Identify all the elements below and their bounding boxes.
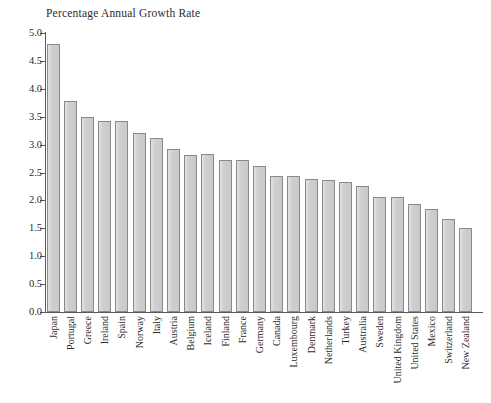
bar-rect[interactable] bbox=[133, 133, 146, 312]
x-tick: Germany bbox=[251, 313, 268, 403]
x-tick: Netherlands bbox=[320, 313, 337, 403]
x-tick: Greece bbox=[79, 313, 96, 403]
x-tick-label: Finland bbox=[221, 316, 231, 347]
x-tick-label: Belgium bbox=[186, 316, 196, 350]
bar-rect[interactable] bbox=[167, 149, 180, 312]
x-tick-label: Mexico bbox=[427, 316, 437, 347]
y-tick-label: 3.5 bbox=[29, 111, 42, 122]
bar-rect[interactable] bbox=[253, 166, 266, 312]
bar-rect[interactable] bbox=[373, 197, 386, 313]
x-tick: Portugal bbox=[62, 313, 79, 403]
bar-rect[interactable] bbox=[98, 121, 111, 312]
x-tick-label: Spain bbox=[117, 316, 127, 339]
bar[interactable] bbox=[200, 33, 217, 312]
x-tick-label: Canada bbox=[272, 316, 282, 346]
bar[interactable] bbox=[269, 33, 286, 312]
x-tick-label: Iceland bbox=[203, 316, 213, 345]
bar[interactable] bbox=[406, 33, 423, 312]
bar[interactable] bbox=[441, 33, 458, 312]
x-tick-label: Sweden bbox=[375, 316, 385, 348]
x-tick-label: Germany bbox=[255, 316, 265, 353]
bar[interactable] bbox=[217, 33, 234, 312]
x-tick-label: Netherlands bbox=[324, 316, 334, 364]
x-tick: Canada bbox=[269, 313, 286, 403]
bar-rect[interactable] bbox=[305, 179, 318, 312]
bar-chart: Percentage Annual Growth Rate 0.00.51.01… bbox=[0, 0, 491, 403]
x-tick: Luxembourg bbox=[286, 313, 303, 403]
bar-rect[interactable] bbox=[322, 180, 335, 312]
x-tick-label: Greece bbox=[83, 316, 93, 344]
x-tick-label: Turkey bbox=[341, 316, 351, 345]
x-tick-label: Norway bbox=[135, 316, 145, 348]
x-tick: Austria bbox=[165, 313, 182, 403]
page-title: Percentage Annual Growth Rate bbox=[46, 7, 200, 19]
bar-rect[interactable] bbox=[442, 219, 455, 312]
bar-rect[interactable] bbox=[236, 160, 249, 312]
x-tick-label: Denmark bbox=[307, 316, 317, 353]
y-tick-label: 0.0 bbox=[29, 307, 42, 318]
bar-rect[interactable] bbox=[47, 44, 60, 312]
x-tick: Ireland bbox=[97, 313, 114, 403]
x-tick: Switzerland bbox=[441, 313, 458, 403]
bar-rect[interactable] bbox=[150, 138, 163, 312]
bar-rect[interactable] bbox=[425, 209, 438, 312]
bar[interactable] bbox=[337, 33, 354, 312]
bar[interactable] bbox=[286, 33, 303, 312]
bar[interactable] bbox=[320, 33, 337, 312]
x-tick-label: Australia bbox=[358, 316, 368, 353]
bar[interactable] bbox=[355, 33, 372, 312]
x-axis-labels: JapanPortugalGreeceIrelandSpainNorwayIta… bbox=[45, 313, 482, 403]
y-tick-label: 2.0 bbox=[29, 195, 42, 206]
bar[interactable] bbox=[114, 33, 131, 312]
x-tick: Iceland bbox=[200, 313, 217, 403]
bar-rect[interactable] bbox=[459, 228, 472, 312]
x-tick: United Kingdom bbox=[389, 313, 406, 403]
bar[interactable] bbox=[79, 33, 96, 312]
bar-rect[interactable] bbox=[115, 121, 128, 312]
bar[interactable] bbox=[148, 33, 165, 312]
y-tick-label: 4.5 bbox=[29, 56, 42, 67]
x-tick-label: Luxembourg bbox=[289, 316, 299, 367]
x-tick: Sweden bbox=[372, 313, 389, 403]
bar-rect[interactable] bbox=[81, 117, 94, 312]
x-tick: Mexico bbox=[423, 313, 440, 403]
x-tick: Italy bbox=[148, 313, 165, 403]
bar[interactable] bbox=[165, 33, 182, 312]
y-tick-label: 1.5 bbox=[29, 223, 42, 234]
bar[interactable] bbox=[183, 33, 200, 312]
bar[interactable] bbox=[372, 33, 389, 312]
bar-rect[interactable] bbox=[356, 186, 369, 312]
x-tick-label: Portugal bbox=[66, 316, 76, 350]
bar[interactable] bbox=[131, 33, 148, 312]
x-tick: Norway bbox=[131, 313, 148, 403]
bar[interactable] bbox=[458, 33, 475, 312]
bar-rect[interactable] bbox=[408, 204, 421, 312]
y-tick-label: 5.0 bbox=[29, 28, 42, 39]
x-tick-label: United Kingdom bbox=[393, 316, 403, 384]
bar[interactable] bbox=[423, 33, 440, 312]
y-tick-label: 2.5 bbox=[29, 167, 42, 178]
x-tick: Finland bbox=[217, 313, 234, 403]
x-tick: Denmark bbox=[303, 313, 320, 403]
bar[interactable] bbox=[97, 33, 114, 312]
bar-rect[interactable] bbox=[270, 176, 283, 312]
bar-rect[interactable] bbox=[391, 197, 404, 313]
x-tick: New Zealand bbox=[458, 313, 475, 403]
bar[interactable] bbox=[234, 33, 251, 312]
bar[interactable] bbox=[45, 33, 62, 312]
bar-rect[interactable] bbox=[287, 176, 300, 312]
x-tick-label: Switzerland bbox=[444, 316, 454, 364]
bar-rect[interactable] bbox=[64, 101, 77, 312]
bar-rect[interactable] bbox=[201, 154, 214, 312]
bar[interactable] bbox=[62, 33, 79, 312]
bar-rect[interactable] bbox=[184, 155, 197, 312]
bar[interactable] bbox=[389, 33, 406, 312]
x-tick-label: Ireland bbox=[100, 316, 110, 344]
bar[interactable] bbox=[303, 33, 320, 312]
x-tick-label: Italy bbox=[152, 316, 162, 334]
bar-rect[interactable] bbox=[219, 160, 232, 312]
y-tick-label: 0.5 bbox=[29, 279, 42, 290]
bar-rect[interactable] bbox=[339, 182, 352, 312]
bar[interactable] bbox=[251, 33, 268, 312]
x-tick-label: United States bbox=[410, 316, 420, 370]
